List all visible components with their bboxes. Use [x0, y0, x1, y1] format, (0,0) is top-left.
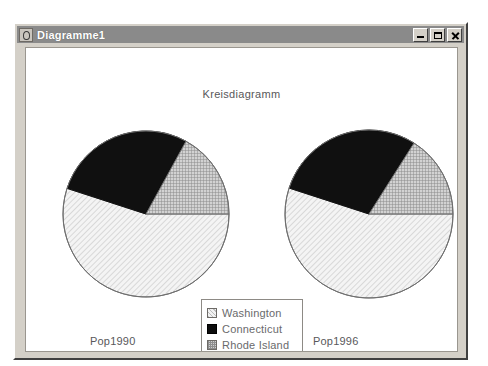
legend-label-washington: Washington [222, 307, 282, 319]
legend-item-washington[interactable]: Washington [207, 305, 296, 321]
legend-item-rhode-island[interactable]: Rhode Island [207, 337, 296, 352]
legend-swatch-washington [207, 308, 217, 318]
application-window: Diagramme1 Kreisdiagramm [13, 22, 468, 360]
window-title: Diagramme1 [37, 29, 105, 41]
pie-chart-pop1990[interactable] [63, 131, 229, 297]
chart-app-icon [19, 28, 33, 42]
category-label-pop1990: Pop1990 [90, 335, 135, 347]
legend-swatch-connecticut [207, 324, 217, 334]
minimize-button[interactable] [413, 28, 428, 42]
maximize-button[interactable] [430, 28, 445, 42]
window-controls [413, 28, 462, 42]
title-bar[interactable]: Diagramme1 [17, 26, 464, 43]
legend-label-connecticut: Connecticut [222, 323, 282, 335]
legend-item-connecticut[interactable]: Connecticut [207, 321, 296, 337]
chart-canvas[interactable]: Kreisdiagramm [25, 47, 458, 352]
category-label-pop1996: Pop1996 [313, 335, 358, 347]
legend-swatch-rhode-island [207, 340, 217, 350]
pie-chart-pop1996[interactable] [285, 130, 453, 298]
close-button[interactable] [447, 28, 462, 42]
chart-legend[interactable]: Washington Connecticut Rhode Island [201, 299, 303, 352]
legend-label-rhode-island: Rhode Island [222, 339, 289, 351]
